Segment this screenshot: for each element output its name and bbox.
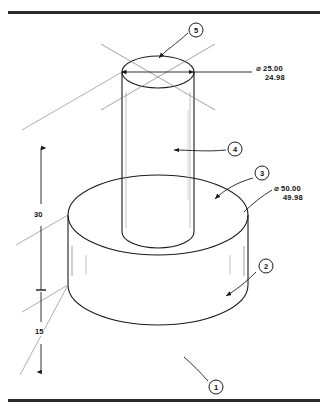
centre-lines (101, 44, 215, 110)
diameter-callout-base: ⌀50.00 (274, 184, 301, 193)
drawing-sheet: ⌀25.00 24.98 ⌀50.00 49.98 30 15 5 4 3 2 … (0, 0, 328, 418)
leader-diameter-base (244, 190, 272, 212)
diameter-symbol-base: ⌀ (274, 184, 279, 193)
diameter-upper-base: 50.00 (281, 184, 301, 193)
diameter-upper-top: 25.00 (263, 64, 283, 73)
balloon-2-label[interactable]: 2 (259, 262, 273, 271)
linear-dimension-30 (36, 148, 46, 290)
extension-lines (16, 72, 122, 375)
diameter-symbol-top: ⌀ (256, 64, 261, 73)
balloon-3-label[interactable]: 3 (255, 169, 269, 178)
balloon-5-label[interactable]: 5 (189, 26, 203, 35)
balloon-1-label[interactable]: 1 (209, 383, 223, 392)
dimension-value-30: 30 (33, 210, 43, 219)
balloon-4-label[interactable]: 4 (228, 145, 242, 154)
dimension-value-15: 15 (34, 327, 44, 336)
leader-balloon-2 (226, 272, 256, 296)
leader-balloon-5 (159, 33, 188, 58)
leader-balloon-1 (184, 357, 208, 381)
balloon-circles (189, 23, 273, 394)
diameter-lower-top: 24.98 (265, 73, 285, 82)
leader-balloon-3 (215, 178, 253, 199)
diameter-lower-base: 49.98 (283, 193, 303, 202)
base-disc-geometry (68, 175, 248, 325)
drawing-geometry (0, 0, 328, 418)
shaft-geometry (122, 56, 194, 248)
diameter-callout-top: ⌀25.00 (256, 64, 283, 73)
leader-balloon-4 (174, 150, 226, 151)
